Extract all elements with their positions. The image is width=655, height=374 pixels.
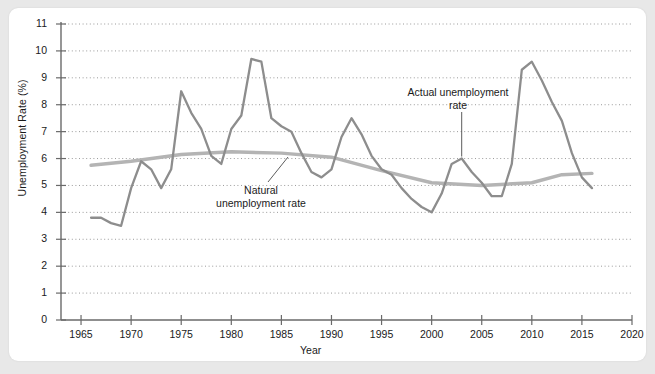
annotation-actual-unemployment-rate: Actual unemployment rate xyxy=(383,86,533,112)
annotation-actual-line2: rate xyxy=(383,99,533,112)
y-axis-tick-label: 2 xyxy=(25,259,47,271)
annotation-natural-line1: Natural xyxy=(186,184,336,197)
annotation-actual-line1: Actual unemployment xyxy=(383,86,533,99)
x-axis-tick-label: 2010 xyxy=(512,328,552,340)
y-axis-tick-label: 8 xyxy=(25,98,47,110)
y-axis-tick-label: 6 xyxy=(25,152,47,164)
annotation-leader-natural xyxy=(268,157,288,182)
y-axis-tick-label: 5 xyxy=(25,178,47,190)
x-axis-tick-label: 1975 xyxy=(161,328,201,340)
y-axis-tick-label: 0 xyxy=(25,313,47,325)
y-axis-tick-label: 1 xyxy=(25,286,47,298)
x-axis-tick-label: 2020 xyxy=(612,328,652,340)
x-axis-tick-label: 1995 xyxy=(362,328,402,340)
x-axis-tick-label: 2005 xyxy=(462,328,502,340)
y-axis-tick-label: 10 xyxy=(25,44,47,56)
y-axis-tick-label: 9 xyxy=(25,71,47,83)
x-axis-tick-label: 2000 xyxy=(412,328,452,340)
x-axis-tick-label: 1965 xyxy=(61,328,101,340)
x-axis-tick-label: 2015 xyxy=(562,328,602,340)
y-axis-tick-label: 7 xyxy=(25,125,47,137)
x-axis-tick-label: 1980 xyxy=(211,328,251,340)
series-line-actual-unemployment-rate xyxy=(91,59,592,226)
x-axis-tick-label: 1970 xyxy=(111,328,151,340)
axes xyxy=(61,22,632,320)
x-axis-tick-label: 1985 xyxy=(261,328,301,340)
y-axis-tick-label: 11 xyxy=(25,17,47,29)
y-axis-title: Unemployment Rate (%) xyxy=(16,68,28,208)
y-axis-tick-label: 4 xyxy=(25,205,47,217)
y-axis-tick-label: 3 xyxy=(25,232,47,244)
x-axis-title: Year xyxy=(300,344,321,356)
annotation-natural-unemployment-rate: Natural unemployment rate xyxy=(186,184,336,210)
x-axis-tick-label: 1990 xyxy=(311,328,351,340)
chart-figure: 01234567891011 1965197019751980198519901… xyxy=(0,0,655,374)
annotation-natural-line2: unemployment rate xyxy=(186,197,336,210)
